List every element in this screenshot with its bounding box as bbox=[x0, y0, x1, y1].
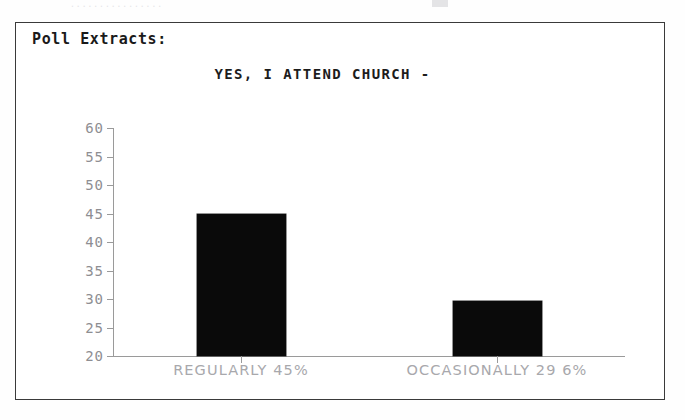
x-axis-label: OCCASIONALLY 29 6% bbox=[407, 362, 588, 378]
bar bbox=[197, 214, 286, 357]
bar bbox=[453, 301, 542, 356]
y-tick-mark bbox=[107, 356, 114, 357]
x-axis-line bbox=[113, 356, 625, 357]
y-tick-mark bbox=[107, 242, 114, 243]
y-tick-mark bbox=[107, 214, 114, 215]
scanned-page: ................ Poll Extracts: YES, I A… bbox=[0, 0, 685, 420]
y-tick-mark bbox=[107, 299, 114, 300]
y-tick-label: 40 bbox=[85, 234, 104, 250]
scan-artifact-mark bbox=[432, 0, 448, 7]
y-tick-label: 55 bbox=[85, 149, 104, 165]
y-tick-mark bbox=[107, 185, 114, 186]
scan-artifact-text: ................ bbox=[70, 0, 250, 7]
y-tick-mark bbox=[107, 328, 114, 329]
y-tick-label: 25 bbox=[85, 320, 104, 336]
page-title: Poll Extracts: bbox=[32, 30, 167, 48]
y-tick-label: 20 bbox=[85, 348, 104, 364]
y-tick-mark bbox=[107, 128, 114, 129]
y-tick-label: 45 bbox=[85, 206, 104, 222]
y-tick-label: 30 bbox=[85, 291, 104, 307]
y-tick-label: 60 bbox=[85, 120, 104, 136]
y-tick-label: 50 bbox=[85, 177, 104, 193]
y-tick-mark bbox=[107, 157, 114, 158]
chart-title: YES, I ATTEND CHURCH - bbox=[0, 66, 685, 82]
x-axis-label: REGULARLY 45% bbox=[173, 362, 309, 378]
y-tick-label: 35 bbox=[85, 263, 104, 279]
bar-chart-plot-area: 605550454035302520 REGULARLY 45%OCCASION… bbox=[113, 128, 625, 356]
y-tick-mark bbox=[107, 271, 114, 272]
